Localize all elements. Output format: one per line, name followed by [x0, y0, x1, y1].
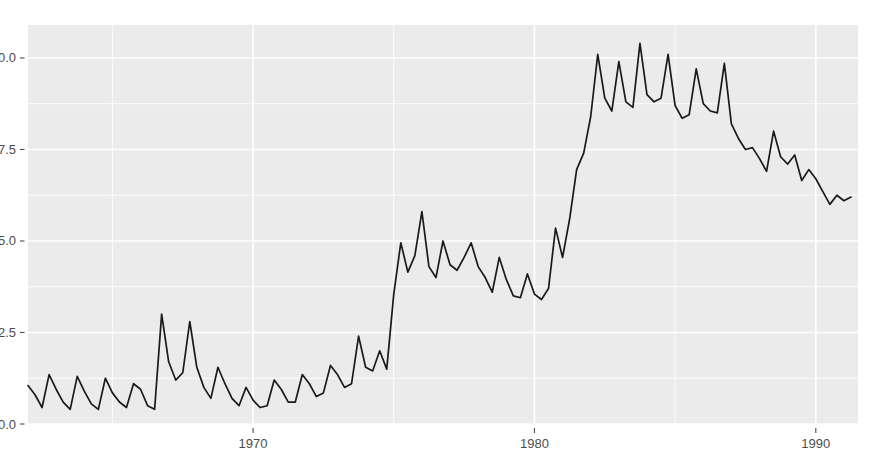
y-tick-label: 2.5	[0, 325, 16, 340]
y-axis-tick-labels: 0.02.55.07.510.0	[0, 50, 25, 431]
x-tick-label: 1990	[801, 436, 830, 451]
y-tick-label: 7.5	[0, 142, 16, 157]
y-tick-label: 5.0	[0, 233, 16, 248]
y-tick-label: 0.0	[0, 417, 16, 432]
x-axis-tick-labels: 197019801990	[239, 428, 831, 451]
y-tick-label: 10.0	[0, 50, 16, 65]
chart-figure: 0.02.55.07.510.0 197019801990	[0, 0, 889, 454]
x-tick-label: 1980	[520, 436, 549, 451]
x-tick-label: 1970	[239, 436, 268, 451]
plot-panel-background	[28, 25, 858, 424]
line-chart-plot: 0.02.55.07.510.0 197019801990	[0, 0, 889, 454]
